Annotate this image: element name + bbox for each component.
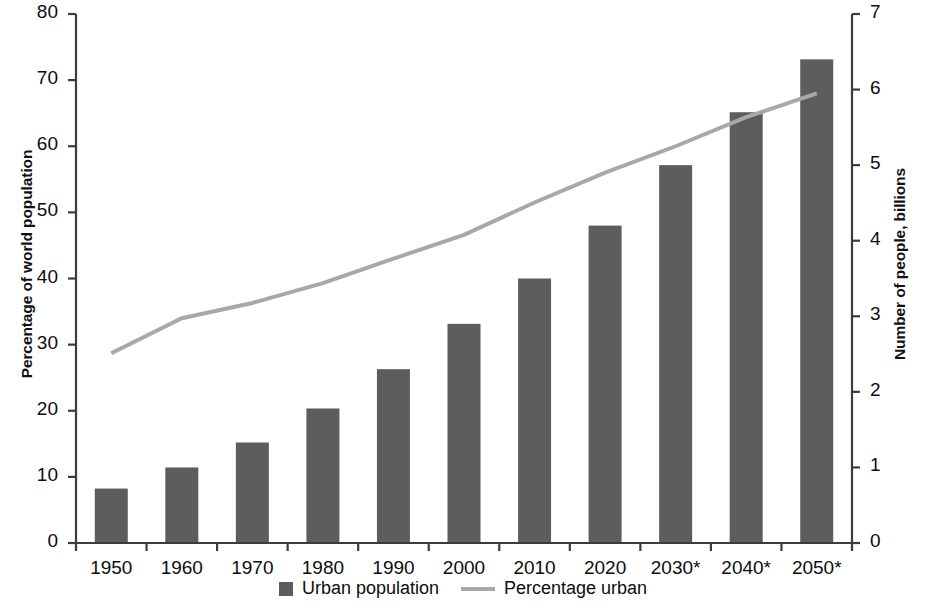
right-tick-label-6: 6 [870, 77, 916, 99]
x-tick-label-2050*: 2050* [772, 557, 862, 579]
legend-label-percentage-urban: Percentage urban [504, 578, 647, 599]
chart-legend: Urban population Percentage urban [0, 578, 926, 599]
bar-1950 [95, 489, 128, 543]
right-tick-label-5: 5 [870, 152, 916, 174]
right-tick-label-7: 7 [870, 1, 916, 23]
legend-bar-swatch-icon [279, 582, 293, 596]
left-tick-label-50: 50 [12, 199, 58, 221]
left-tick-label-60: 60 [12, 133, 58, 155]
bar-2050* [800, 59, 833, 543]
right-tick-label-3: 3 [870, 303, 916, 325]
legend-line-swatch-icon [461, 587, 495, 591]
legend-item-percentage-urban: Percentage urban [461, 578, 647, 599]
legend-item-urban-population: Urban population [279, 578, 439, 599]
plot-area [0, 0, 926, 608]
left-tick-label-20: 20 [12, 398, 58, 420]
bar-2000 [448, 324, 481, 543]
left-tick-label-30: 30 [12, 332, 58, 354]
bar-2040* [730, 112, 763, 543]
right-tick-label-4: 4 [870, 228, 916, 250]
bar-2010 [518, 279, 551, 544]
legend-label-urban-population: Urban population [302, 578, 439, 599]
bar-1960 [165, 467, 198, 543]
left-tick-label-0: 0 [12, 530, 58, 552]
left-tick-label-10: 10 [12, 464, 58, 486]
right-tick-label-1: 1 [870, 454, 916, 476]
chart-container: Percentage of world population Number of… [0, 0, 926, 608]
bar-1980 [306, 408, 339, 543]
left-tick-label-40: 40 [12, 266, 58, 288]
percentage-urban-line [111, 93, 816, 353]
left-tick-label-70: 70 [12, 67, 58, 89]
bar-1990 [377, 369, 410, 543]
bar-2020 [589, 226, 622, 543]
right-tick-label-0: 0 [870, 530, 916, 552]
bar-1970 [236, 442, 269, 543]
right-tick-label-2: 2 [870, 379, 916, 401]
bars-group [95, 59, 833, 543]
bar-2030* [659, 165, 692, 543]
left-tick-label-80: 80 [12, 1, 58, 23]
